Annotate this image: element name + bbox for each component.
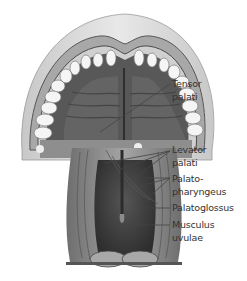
label-palatoglossus: Palatoglossus (172, 201, 234, 214)
label-levator-palati: Levator palati (172, 143, 206, 169)
label-palatopharyngeus: Palato- pharyngeus (172, 172, 226, 198)
label-musculus-uvulae: Musculus uvulae (172, 218, 214, 244)
label-tensor-palati: Tensor palati (172, 77, 202, 103)
